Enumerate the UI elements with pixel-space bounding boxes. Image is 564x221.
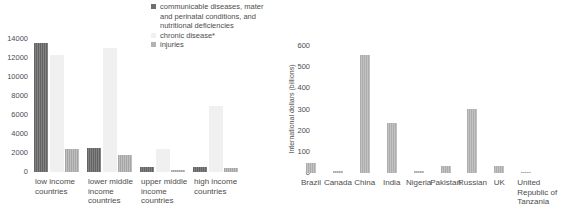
legend-label: chronic disease*: [160, 31, 272, 41]
legend-item-communicable: communicable diseases, mater and perinat…: [151, 2, 287, 31]
country-bar: [494, 166, 504, 173]
y-tick-label: 10000: [0, 72, 28, 82]
bar-group: [87, 48, 132, 172]
x-category-label: United Republic of Tanzania: [517, 178, 564, 207]
x-category-label: high income countries: [194, 177, 248, 196]
y-tick-label: 0: [0, 167, 28, 177]
legend-item-chronic: chronic disease*: [151, 31, 287, 41]
chronic-bar: [156, 149, 170, 172]
injuries-swatch-icon: [151, 42, 156, 47]
y-tick-label: 4000: [0, 129, 28, 139]
injuries-bar: [65, 149, 79, 172]
communicable-bar: [140, 167, 154, 172]
chronic-bar: [103, 48, 117, 172]
country-bar: [521, 172, 531, 173]
legend: communicable diseases, mater and perinat…: [151, 2, 287, 50]
communicable-bar: [87, 148, 101, 172]
legend-item-injuries: injuries: [151, 40, 287, 50]
bar-group: [34, 43, 79, 172]
country-bar: [414, 171, 424, 173]
communicable-bar: [193, 167, 207, 172]
left-plot-area: [34, 39, 284, 172]
chronic-swatch-icon: [151, 33, 156, 38]
chronic-bar: [209, 106, 223, 172]
bar-group: [140, 149, 185, 172]
injuries-bar: [224, 168, 238, 172]
country-bar: [360, 55, 370, 173]
legend-label: injuries: [160, 40, 272, 50]
y-tick-label: 12000: [0, 53, 28, 63]
right-plot-area: [300, 46, 550, 173]
y-tick-label: 2000: [0, 148, 28, 158]
y-tick-label: 8000: [0, 91, 28, 101]
chronic-bar: [50, 55, 64, 172]
legend-label: communicable diseases, mater and perinat…: [160, 2, 272, 31]
injuries-bar: [118, 155, 132, 172]
y-tick-label: 14000: [0, 34, 28, 44]
x-category-label: lower middle income countries: [88, 177, 142, 206]
x-category-label: low income countries: [35, 177, 89, 196]
communicable-swatch-icon: [151, 4, 156, 9]
country-bar: [467, 109, 477, 173]
report-figure: 02000400060008000100001200014000 low inc…: [0, 0, 564, 221]
country-bar: [387, 123, 397, 173]
injuries-bar: [171, 170, 185, 172]
country-bar: [441, 166, 451, 173]
x-category-label: upper middle income countries: [141, 177, 195, 206]
y-tick-label: 6000: [0, 110, 28, 120]
communicable-bar: [34, 43, 48, 172]
bar-group: [193, 106, 238, 172]
country-bar: [306, 163, 316, 173]
country-bar: [333, 171, 343, 173]
